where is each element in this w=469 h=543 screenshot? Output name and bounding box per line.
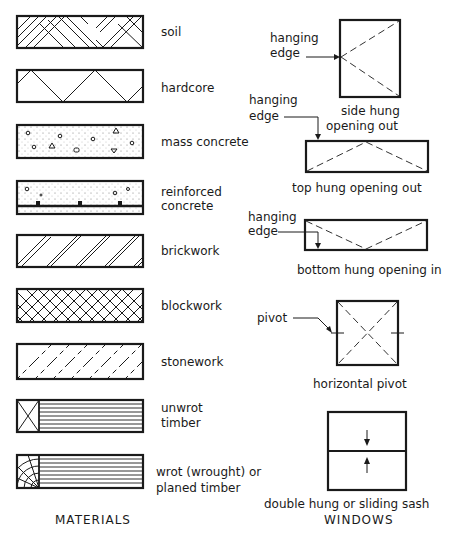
side-hung-window [306,20,400,97]
svg-text:horizontal pivot: horizontal pivot [313,377,407,391]
svg-text:brickwork: brickwork [161,244,220,258]
hardcore-hatch [17,70,143,102]
svg-text:mass concrete: mass concrete [161,135,249,149]
mass-concrete-hatch [17,125,143,158]
svg-text:top hung opening out: top hung opening out [292,181,422,195]
soil-hatch [17,16,143,48]
drawing-conventions-diagram: soil hardcore mass concrete reinforcedco… [0,0,469,543]
double-hung-sash-window [328,412,406,490]
svg-text:soil: soil [161,25,181,39]
svg-text:side hungopening out: side hungopening out [326,104,400,133]
svg-text:hangingedge: hangingedge [249,93,298,123]
reinforced-concrete-hatch [17,181,143,214]
svg-text:double hung or sliding sash: double hung or sliding sash [264,497,429,511]
svg-text:stonework: stonework [161,355,223,369]
materials-heading: MATERIALS [55,513,131,527]
bottom-hung-window [278,220,427,250]
svg-text:pivot: pivot [257,311,287,325]
svg-text:reinforcedconcrete: reinforcedconcrete [161,185,222,213]
svg-text:unwrottimber: unwrottimber [161,401,203,430]
stonework-hatch [10,344,178,386]
unwrot-timber-hatch [17,400,143,432]
wrot-timber-hatch [10,455,143,517]
svg-text:hangingedge: hangingedge [270,31,319,60]
windows-heading: WINDOWS [324,513,394,527]
svg-text:hangingedge: hangingedge [248,210,297,238]
blockwork-hatch [0,289,170,322]
brickwork-hatch [17,235,150,267]
horizontal-pivot-window [293,301,404,365]
svg-text:blockwork: blockwork [161,299,222,313]
svg-text:hardcore: hardcore [161,81,214,95]
svg-text:wrot (wrought) orplaned timber: wrot (wrought) orplaned timber [156,465,261,495]
svg-text:bottom hung opening in: bottom hung opening in [297,263,442,277]
